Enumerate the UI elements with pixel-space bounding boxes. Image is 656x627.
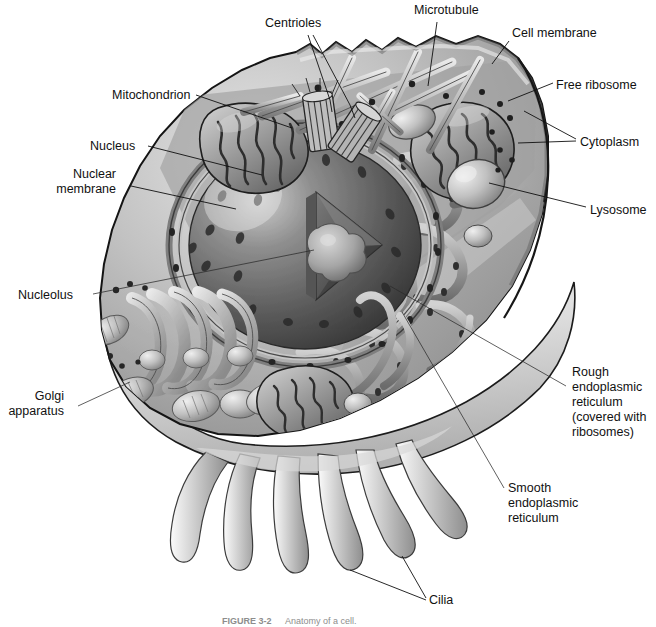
label-cell-membrane: Cell membrane [512, 26, 597, 40]
label-golgi-apparatus-line2: apparatus [8, 404, 64, 418]
label-microtubule: Microtubule [414, 3, 479, 17]
label-nucleolus: Nucleolus [18, 288, 73, 302]
label-smooth-er-line1: Smooth [508, 481, 551, 495]
figure-caption-number: FIGURE 3-2 [222, 616, 272, 626]
label-rough-er-line4: (covered with [572, 410, 646, 424]
label-smooth-er-line2: endoplasmic [508, 496, 578, 510]
figure-caption: FIGURE 3-2 Anatomy of a cell. [222, 616, 357, 626]
label-centrioles: Centrioles [265, 16, 321, 30]
label-nuclear-membrane-line2: membrane [56, 182, 116, 196]
label-lysosome: Lysosome [590, 203, 647, 217]
label-free-ribosome: Free ribosome [556, 78, 637, 92]
label-rough-er-line3: reticulum [572, 395, 623, 409]
label-nuclear-membrane-line1: Nuclear [73, 167, 116, 181]
cell-diagram-figure: Centrioles Microtubule Cell membrane Fre… [0, 0, 656, 627]
label-nucleus: Nucleus [90, 139, 135, 153]
label-rough-er-line5: ribosomes) [572, 425, 634, 439]
label-cytoplasm: Cytoplasm [580, 135, 639, 149]
label-rough-er-line2: endoplasmic [572, 380, 642, 394]
label-rough-er-line1: Rough [572, 365, 609, 379]
label-golgi-apparatus-line1: Golgi [35, 389, 64, 403]
label-mitochondrion: Mitochondrion [112, 88, 191, 102]
figure-caption-text: Anatomy of a cell. [285, 616, 357, 626]
label-smooth-er-line3: reticulum [508, 511, 559, 525]
label-cilia: Cilia [429, 593, 453, 607]
animal-cell-illustration: Centrioles Microtubule Cell membrane Fre… [0, 0, 656, 627]
